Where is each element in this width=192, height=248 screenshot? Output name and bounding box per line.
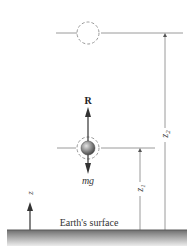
normal-force-label: R <box>84 95 92 106</box>
ball-icon <box>81 141 95 155</box>
z-axis-label: z <box>25 191 35 196</box>
upper-position-dashed-circle <box>77 22 99 44</box>
height-2-dimension: z2 <box>159 33 172 230</box>
ground-band <box>7 230 187 246</box>
gravity-height-diagram: z2 z1 R mg z Earth's surface <box>0 0 192 248</box>
z-axis-arrowhead-icon <box>27 202 33 211</box>
height-2-arrowhead-icon <box>163 33 167 37</box>
height-1-dimension: z1 <box>134 148 147 230</box>
upper-position-group <box>56 22 183 44</box>
ground: Earth's surface <box>7 217 187 246</box>
weight-arrowhead-icon <box>85 163 91 174</box>
normal-force-arrowhead-icon <box>85 107 91 117</box>
weight-vector: mg <box>82 155 94 186</box>
z-axis: z <box>25 191 35 230</box>
normal-force-vector: R <box>84 95 92 141</box>
ground-label: Earth's surface <box>60 217 119 228</box>
weight-label: mg <box>82 175 94 186</box>
height-1-arrowhead-icon <box>138 148 142 152</box>
